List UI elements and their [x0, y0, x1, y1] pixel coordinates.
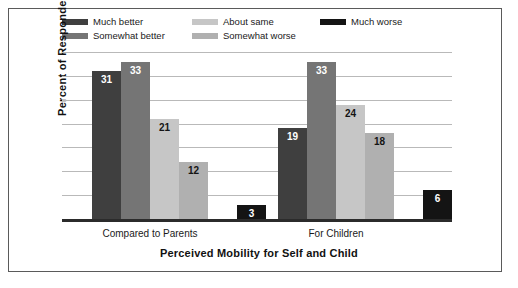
- bar-value-label: 33: [307, 66, 336, 76]
- bar[interactable]: 18: [365, 133, 394, 219]
- chart-canvas: Much betterSomewhat betterAbout sameSome…: [0, 0, 518, 288]
- x-category-label: Compared to Parents: [80, 228, 220, 239]
- bar-value-label: 31: [92, 75, 121, 85]
- bar[interactable]: 33: [121, 62, 150, 219]
- chart-legend: Much betterSomewhat betterAbout sameSome…: [62, 16, 422, 46]
- legend-label: About same: [223, 17, 274, 27]
- bar-value-label: 33: [121, 66, 150, 76]
- bar[interactable]: 31: [92, 71, 121, 219]
- chart-title: Perceived Mobility for Self and Child: [0, 247, 518, 259]
- legend-item-somewhat-worse[interactable]: Somewhat worse: [192, 30, 296, 42]
- bar-value-label: 24: [336, 109, 365, 119]
- bar-value-label: 21: [150, 123, 179, 133]
- gridline: [62, 52, 452, 53]
- bar[interactable]: 6: [423, 190, 452, 219]
- x-category-label: For Children: [266, 228, 406, 239]
- bar[interactable]: 19: [278, 128, 307, 219]
- bar-value-label: 6: [423, 194, 452, 204]
- legend-item-somewhat-better[interactable]: Somewhat better: [62, 30, 165, 42]
- bar[interactable]: 12: [179, 162, 208, 219]
- legend-label: Much worse: [351, 17, 402, 27]
- bar[interactable]: 3: [237, 205, 266, 219]
- legend-swatch-icon: [192, 33, 218, 39]
- legend-label: Much better: [93, 17, 143, 27]
- bar[interactable]: 21: [150, 119, 179, 219]
- bar-value-label: 3: [237, 209, 266, 219]
- bar-value-label: 12: [179, 166, 208, 176]
- bar-value-label: 19: [278, 132, 307, 142]
- bar[interactable]: 33: [307, 62, 336, 219]
- x-axis-baseline: [62, 219, 452, 222]
- legend-item-much-better[interactable]: Much better: [62, 16, 143, 28]
- legend-item-about-same[interactable]: About same: [192, 16, 274, 28]
- legend-swatch-icon: [320, 19, 346, 25]
- bar-value-label: 18: [365, 137, 394, 147]
- plot-area: Percent of Respondents 05101520253035 31…: [62, 52, 452, 219]
- legend-label: Somewhat better: [93, 31, 165, 41]
- bar[interactable]: 24: [336, 105, 365, 220]
- legend-item-much-worse[interactable]: Much worse: [320, 16, 402, 28]
- legend-swatch-icon: [192, 19, 218, 25]
- legend-label: Somewhat worse: [223, 31, 296, 41]
- y-axis-label: Percent of Respondents: [56, 0, 68, 116]
